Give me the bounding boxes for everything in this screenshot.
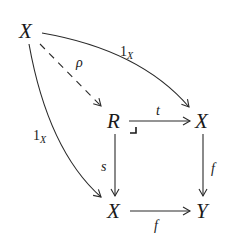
commutative-diagram: X R X X Y ρ 1X 1X t s f f [0,0,230,249]
label-identity-left: 1X [33,128,47,145]
label-f-bottom: f [154,218,160,233]
arrow-identity-left: 1X [29,44,101,197]
pullback-corner-icon [130,127,136,133]
node-top-left-x: X [18,19,33,43]
node-bottom-left-x: X [106,199,121,223]
arrow-t: t [129,103,190,121]
label-s: s [101,159,107,174]
label-rho: ρ [75,55,83,70]
arrow-f-right: f [203,134,217,196]
label-t: t [156,103,161,118]
arrow-f-bottom: f [130,211,190,233]
label-identity-top: 1X [120,44,134,61]
arrow-identity-top: 1X [42,33,189,107]
node-bottom-right-y: Y [196,199,210,223]
node-top-right-x: X [194,109,209,133]
node-pullback-r: R [106,109,120,133]
arrow-rho: ρ [40,44,101,106]
label-f-right: f [211,161,217,176]
arrow-s: s [101,134,115,196]
